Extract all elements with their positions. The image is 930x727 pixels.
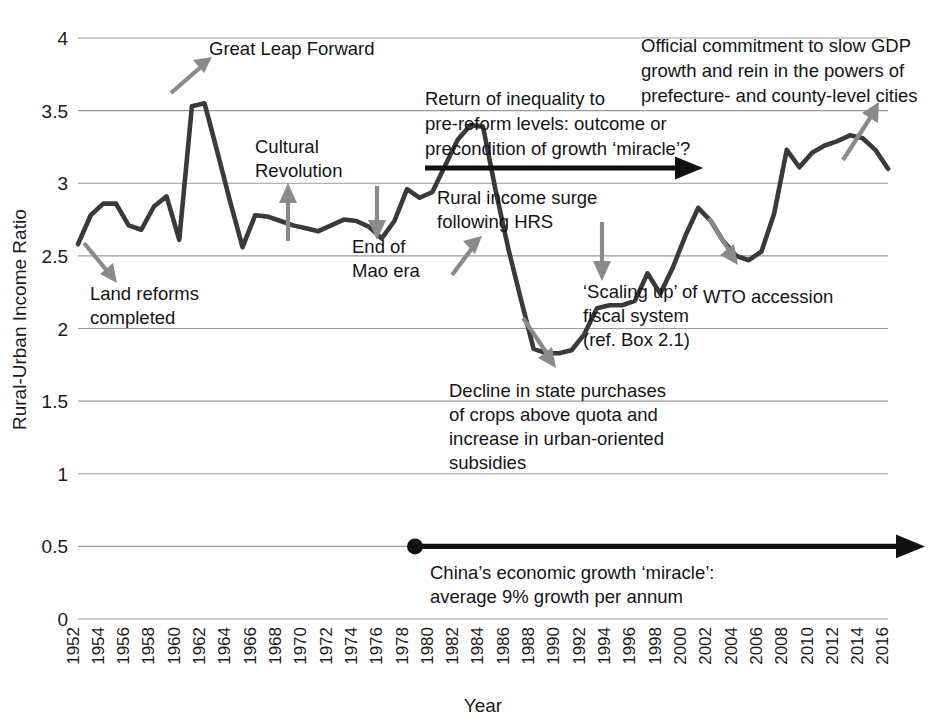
- annotation-scaling-up-line1: ‘Scaling up’ of: [583, 281, 698, 302]
- annotation-decline-state-line1: Decline in state purchases: [449, 380, 666, 401]
- annotation-decline-state-line2: of crops above quota and: [449, 404, 658, 425]
- y-tick-4: 4: [57, 28, 68, 49]
- annotation-return-inequality-line3: precondition of growth ‘miracle’?: [425, 138, 690, 159]
- return-of-inequality-arrow: [425, 157, 703, 180]
- y-tick-1: 1: [57, 464, 68, 485]
- annotation-official-commitment-line1: Official commitment to slow GDP: [641, 35, 911, 56]
- wto-accession-arrow: [709, 218, 738, 265]
- x-tick-1972: 1972: [317, 627, 336, 665]
- annotation-rural-income-line1: Rural income surge: [437, 187, 597, 208]
- annotation-scaling-up-line2: fiscal system: [583, 305, 689, 326]
- rural-urban-income-ratio-chart: 4 3.5 3 2.5 2 1.5 1 0.5 0 Rural-Urban In…: [0, 0, 930, 727]
- y-tick-1.5: 1.5: [42, 391, 68, 412]
- x-tick-1996: 1996: [620, 627, 639, 665]
- x-tick-1982: 1982: [443, 627, 462, 665]
- annotation-end-of-mao-line1: End of: [352, 236, 406, 257]
- annotation-cultural-revolution-line2: Revolution: [255, 160, 342, 181]
- x-tick-2002: 2002: [696, 627, 715, 665]
- x-tick-1956: 1956: [114, 627, 133, 665]
- x-tick-1958: 1958: [139, 627, 158, 665]
- x-tick-2016: 2016: [873, 627, 892, 665]
- x-tick-1968: 1968: [266, 627, 285, 665]
- x-tick-1980: 1980: [418, 627, 437, 665]
- cultural-revolution-arrow: [279, 183, 297, 241]
- y-axis-title: Rural-Urban Income Ratio: [9, 209, 30, 430]
- y-tick-2: 2: [57, 319, 68, 340]
- y-tick-2.5: 2.5: [42, 246, 68, 267]
- x-tick-2014: 2014: [848, 627, 867, 665]
- annotation-rural-income-line2: following HRS: [437, 211, 553, 232]
- annotation-land-reforms-line1: Land reforms: [90, 283, 199, 304]
- x-tick-1974: 1974: [342, 627, 361, 665]
- y-tick-3: 3: [57, 173, 68, 194]
- x-tick-1962: 1962: [190, 627, 209, 665]
- x-tick-2006: 2006: [747, 627, 766, 665]
- chart-container: 4 3.5 3 2.5 2 1.5 1 0.5 0 Rural-Urban In…: [0, 0, 930, 727]
- x-tick-1990: 1990: [544, 627, 563, 665]
- x-tick-1976: 1976: [367, 627, 386, 665]
- annotation-cultural-revolution-line1: Cultural: [255, 136, 319, 157]
- timeline-arrowhead: [896, 535, 925, 559]
- annotation-end-of-mao-line2: Mao era: [352, 260, 421, 281]
- x-axis-title: Year: [464, 695, 503, 716]
- annotation-decline-state-line4: subsidies: [449, 452, 526, 473]
- x-tick-1952: 1952: [64, 627, 83, 665]
- x-tick-2004: 2004: [722, 627, 741, 665]
- x-tick-1960: 1960: [165, 627, 184, 665]
- annotation-wto-accession: WTO accession: [703, 286, 833, 307]
- x-axis-tick-labels: 1952 1954 1956 1958 1960 1962 1964 1966 …: [64, 627, 893, 665]
- end-of-mao-era-arrow: [368, 186, 386, 240]
- annotation-great-leap-forward: Great Leap Forward: [209, 38, 375, 59]
- scaling-up-arrow: [593, 222, 611, 281]
- inequality-arrowhead: [675, 157, 703, 180]
- x-tick-1984: 1984: [468, 627, 487, 665]
- annotation-return-inequality-line1: Return of inequality to: [425, 88, 605, 109]
- china-miracle-timeline-arrow: [407, 535, 925, 559]
- x-tick-2012: 2012: [823, 627, 842, 665]
- y-tick-0.5: 0.5: [42, 536, 68, 557]
- annotation-return-inequality-line2: pre-reform levels: outcome or: [425, 113, 667, 134]
- annotation-china-miracle-line2: average 9% growth per annum: [430, 586, 683, 607]
- land-reforms-arrow: [84, 243, 117, 283]
- x-tick-1966: 1966: [241, 627, 260, 665]
- annotation-labels: Great Leap Forward Cultural Revolution L…: [90, 35, 918, 607]
- x-tick-1998: 1998: [646, 627, 665, 665]
- x-tick-1988: 1988: [519, 627, 538, 665]
- annotation-decline-state-line3: increase in urban-oriented: [449, 428, 664, 449]
- y-tick-3.5: 3.5: [42, 101, 68, 122]
- y-tick-0: 0: [57, 609, 68, 630]
- x-tick-2008: 2008: [772, 627, 791, 665]
- annotation-scaling-up-line3: (ref. Box 2.1): [583, 329, 690, 350]
- x-tick-2010: 2010: [798, 627, 817, 665]
- annotation-official-commitment-line3: prefecture- and county-level cities: [641, 85, 918, 106]
- annotation-china-miracle-line1: China’s economic growth ‘miracle’:: [430, 562, 714, 583]
- decline-state-purchases-arrow: [523, 318, 556, 368]
- annotation-land-reforms-line2: completed: [90, 307, 175, 328]
- annotation-official-commitment-line2: growth and rein in the powers of: [641, 60, 905, 81]
- x-tick-1954: 1954: [89, 627, 108, 665]
- great-leap-forward-arrow: [171, 57, 212, 93]
- x-tick-1992: 1992: [570, 627, 589, 665]
- x-tick-1964: 1964: [215, 627, 234, 665]
- x-tick-1986: 1986: [494, 627, 513, 665]
- x-tick-2000: 2000: [671, 627, 690, 665]
- x-tick-1994: 1994: [595, 627, 614, 665]
- x-tick-1978: 1978: [393, 627, 412, 665]
- x-tick-1970: 1970: [291, 627, 310, 665]
- y-axis-tick-labels: 4 3.5 3 2.5 2 1.5 1 0.5 0: [42, 28, 69, 630]
